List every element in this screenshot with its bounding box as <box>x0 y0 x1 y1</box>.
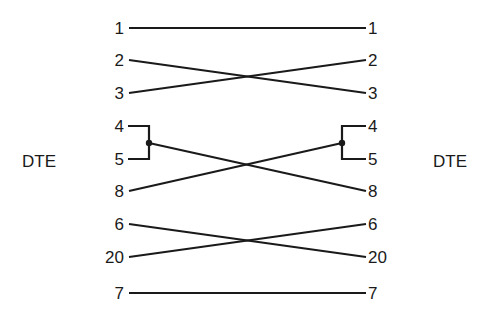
left-pin-label-2: 2 <box>94 52 124 69</box>
left-device-label: DTE <box>22 153 56 170</box>
left-pin-label-7: 7 <box>94 285 124 302</box>
junction-dot-right <box>339 140 345 146</box>
right-pin-label-8: 8 <box>368 183 398 200</box>
bridge-right-4-5 <box>342 126 366 159</box>
right-pin-label-6: 6 <box>368 216 398 233</box>
right-pin-label-4: 4 <box>368 118 398 135</box>
left-pin-label-5: 5 <box>94 151 124 168</box>
wire-8-to-4-5 <box>129 143 342 191</box>
right-pin-label-7: 7 <box>368 285 398 302</box>
left-pin-label-20: 20 <box>94 249 124 266</box>
left-pin-label-3: 3 <box>94 85 124 102</box>
left-pin-label-4: 4 <box>94 118 124 135</box>
right-device-label: DTE <box>433 153 467 170</box>
wiring-diagram <box>0 0 497 313</box>
left-pin-label-8: 8 <box>94 183 124 200</box>
left-pin-label-6: 6 <box>94 216 124 233</box>
right-pin-label-3: 3 <box>368 85 398 102</box>
right-pin-label-2: 2 <box>368 52 398 69</box>
junction-dot-left <box>146 140 152 146</box>
right-pin-label-1: 1 <box>368 20 398 37</box>
right-pin-label-20: 20 <box>368 249 398 266</box>
right-pin-label-5: 5 <box>368 151 398 168</box>
left-pin-label-1: 1 <box>94 20 124 37</box>
wire-4-5-to-8 <box>149 143 366 191</box>
